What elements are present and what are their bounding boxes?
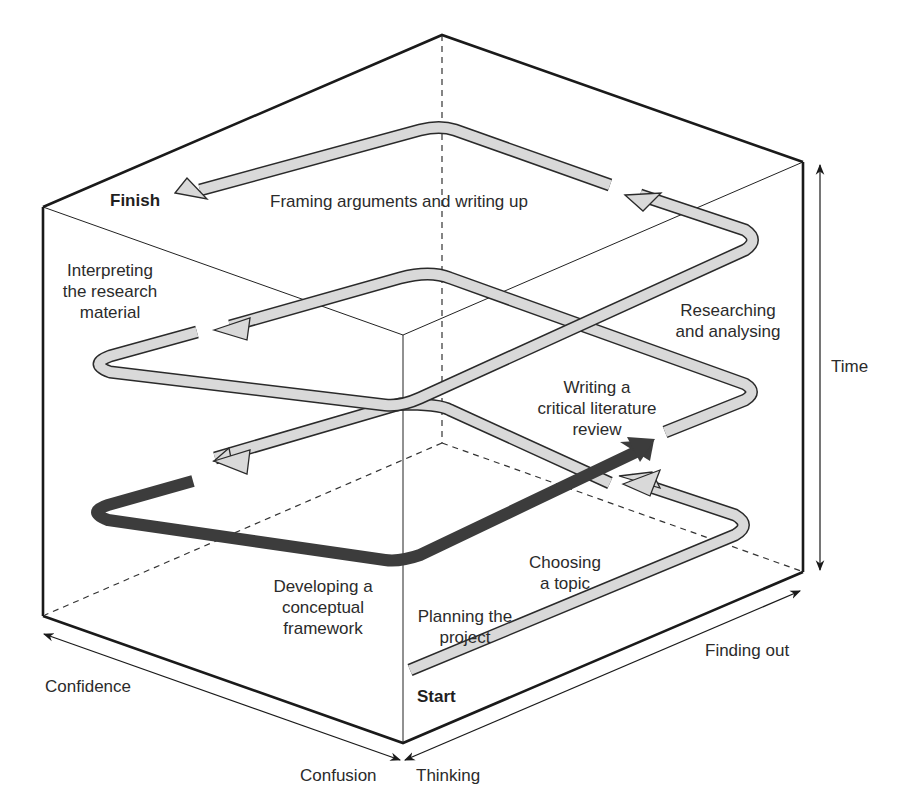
axis-label-finding-out: Finding out [705, 640, 789, 661]
path-interpreting [99, 193, 753, 405]
stage-choosing-topic: Choosing a topic [515, 552, 615, 594]
finish-marker: Finish [110, 190, 160, 211]
confidence-confusion-axis-arrow [44, 634, 400, 760]
stage-literature-review: Writing a critical literature review [512, 377, 682, 440]
axis-label-thinking: Thinking [416, 765, 480, 786]
path-conceptual-framework [97, 437, 655, 560]
start-marker: Start [417, 686, 456, 707]
axis-label-confusion: Confusion [300, 765, 377, 786]
stage-framing-arguments: Framing arguments and writing up [270, 191, 528, 212]
axis-label-confidence: Confidence [45, 676, 131, 697]
path-framing-arguments [175, 128, 610, 200]
stage-conceptual-framework: Developing a conceptual framework [258, 576, 388, 639]
stage-planning-project: Planning the project [410, 606, 520, 648]
axis-arrows [44, 165, 820, 760]
axis-label-time: Time [831, 356, 868, 377]
stage-researching: Researching and analysing [668, 300, 788, 342]
stage-interpreting: Interpreting the research material [55, 260, 165, 323]
